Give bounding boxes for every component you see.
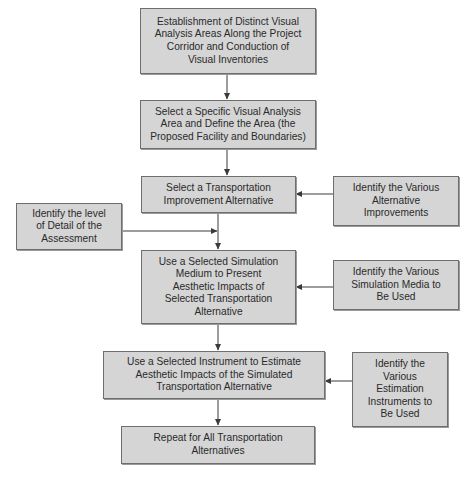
input-estimation-instruments-box: Identify the Various Estimation Instrume… bbox=[352, 352, 448, 427]
step1-label: Establishment of Distinct Visual Analysi… bbox=[155, 16, 302, 66]
step6-label: Repeat for All Transportation Alternativ… bbox=[153, 432, 282, 457]
step2-label: Select a Specific Visual Analysis Area a… bbox=[150, 106, 306, 144]
step4-label: Use a Selected Simulation Medium to Pres… bbox=[159, 256, 278, 319]
step3-box: Select a Transportation Improvement Alte… bbox=[141, 176, 296, 213]
input-level-of-detail-box: Identify the level of Detail of the Asse… bbox=[16, 203, 122, 250]
input-simulation-media-label: Identify the Various Simulation Media to… bbox=[351, 266, 440, 304]
input-alternative-improvements-box: Identify the Various Alternative Improve… bbox=[333, 176, 459, 226]
step1-box: Establishment of Distinct Visual Analysi… bbox=[140, 8, 316, 74]
step6-box: Repeat for All Transportation Alternativ… bbox=[121, 426, 315, 464]
step2-box: Select a Specific Visual Analysis Area a… bbox=[140, 100, 316, 149]
step5-label: Use a Selected Instrument to Estimate Ae… bbox=[127, 356, 301, 394]
input-alternative-improvements-label: Identify the Various Alternative Improve… bbox=[353, 182, 439, 220]
input-estimation-instruments-label: Identify the Various Estimation Instrume… bbox=[368, 358, 433, 421]
step4-box: Use a Selected Simulation Medium to Pres… bbox=[141, 250, 296, 324]
input-simulation-media-box: Identify the Various Simulation Media to… bbox=[333, 260, 459, 310]
input-level-of-detail-label: Identify the level of Detail of the Asse… bbox=[32, 208, 106, 246]
step5-box: Use a Selected Instrument to Estimate Ae… bbox=[103, 351, 325, 399]
step3-label: Select a Transportation Improvement Alte… bbox=[164, 182, 274, 207]
